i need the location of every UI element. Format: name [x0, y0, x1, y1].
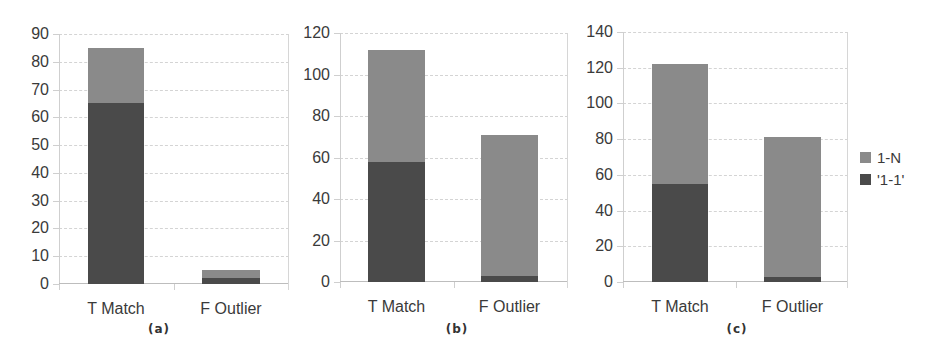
- y-tick-label: 140: [573, 24, 613, 40]
- x-category-label: T Match: [625, 299, 735, 315]
- bar-segment-1-1: [764, 277, 821, 282]
- legend-label-1-n: 1-N: [877, 149, 901, 166]
- legend-swatch-1-n-icon: [860, 152, 871, 163]
- x-tick: [736, 282, 737, 288]
- y-tick-label: 0: [573, 274, 613, 290]
- legend-label-1-1: '1-1': [877, 171, 904, 188]
- legend-item-1-n: 1-N: [860, 146, 904, 168]
- bar-segment-1-n: [652, 64, 708, 184]
- y-axis: [623, 32, 624, 288]
- legend-swatch-1-1-icon: [860, 174, 871, 185]
- y-tick-label: 60: [573, 167, 613, 183]
- gridline: [623, 32, 848, 33]
- y-tick-label: 40: [573, 203, 613, 219]
- chart-panel-c: 020406080100120140T MatchF Outlier(c): [0, 0, 930, 353]
- plot-right-edge: [847, 32, 848, 288]
- plot-area: [623, 32, 848, 282]
- bar-segment-1-1: [652, 184, 708, 282]
- legend-item-1-1: '1-1': [860, 168, 904, 190]
- bar-f-outlier: [764, 137, 821, 282]
- chart-caption: (c): [717, 322, 757, 336]
- x-category-label: F Outlier: [738, 299, 848, 315]
- legend: 1-N '1-1': [860, 146, 904, 190]
- y-tick-label: 100: [573, 95, 613, 111]
- bar-segment-1-n: [764, 137, 821, 276]
- bar-t-match: [652, 64, 708, 282]
- y-tick-label: 120: [573, 60, 613, 76]
- y-tick-label: 80: [573, 131, 613, 147]
- y-tick-label: 20: [573, 238, 613, 254]
